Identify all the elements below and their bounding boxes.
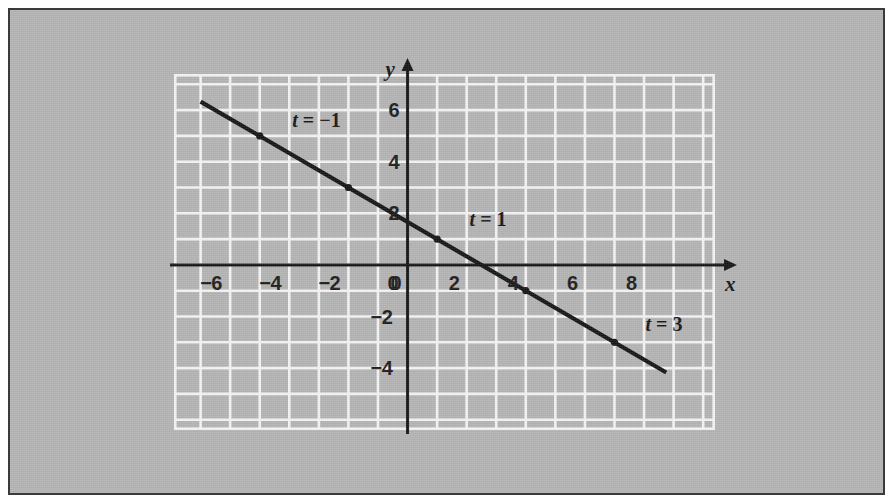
x-tick-label-8: 8: [626, 273, 637, 293]
point-annotation-1: t = 1: [470, 209, 507, 229]
x-tick-label-2: 2: [449, 273, 460, 293]
x-tick-label-neg6: −6: [200, 273, 222, 293]
x-tick-label-neg4: −4: [259, 273, 281, 293]
x-tick-label-6: 6: [567, 273, 578, 293]
point-annotation-0: t = −1: [292, 110, 340, 130]
labels-layer: −6−4−202468642−2−40xyt = −1t = 1t = 3: [10, 10, 883, 493]
y-tick-label-6: 6: [389, 100, 400, 120]
point-annotation-2: t = 3: [646, 314, 683, 334]
origin-label: 0: [388, 273, 399, 293]
figure-frame: −6−4−202468642−2−40xyt = −1t = 1t = 3: [8, 8, 885, 495]
x-tick-label-neg2: −2: [318, 273, 340, 293]
figure-root: −6−4−202468642−2−40xyt = −1t = 1t = 3: [0, 0, 893, 503]
y-tick-label-neg2: −2: [371, 307, 393, 327]
y-tick-label-neg4: −4: [371, 358, 393, 378]
y-tick-label-4: 4: [389, 152, 400, 172]
x-tick-label-4: 4: [508, 273, 519, 293]
y-tick-label-2: 2: [389, 203, 400, 223]
y-axis-name: y: [386, 59, 395, 80]
x-axis-name: x: [725, 274, 736, 295]
